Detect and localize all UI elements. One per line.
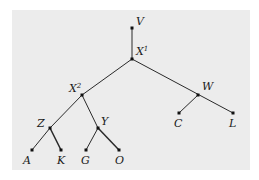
node-x1	[131, 58, 134, 61]
edge-w-c	[179, 95, 198, 113]
node-a	[31, 149, 34, 152]
label-y: Y	[101, 115, 110, 128]
label-z: Z	[36, 117, 45, 130]
node-c	[178, 112, 181, 115]
label-k: K	[56, 154, 66, 167]
node-k	[60, 149, 63, 152]
node-w	[197, 94, 200, 97]
edge-z-a	[32, 128, 50, 150]
tree-diagram: V X1 X2 W Z Y C L A K G O	[0, 0, 259, 180]
label-g: G	[81, 154, 90, 167]
label-v: V	[136, 15, 145, 28]
edge-x2-z	[50, 95, 82, 128]
edge-x1-x2	[82, 59, 132, 95]
edge-x2-y	[82, 95, 98, 128]
label-l: L	[228, 117, 236, 130]
edge-y-o	[98, 128, 119, 150]
node-o	[118, 149, 121, 152]
node-y	[97, 127, 100, 130]
node-x2	[81, 94, 84, 97]
node-z	[49, 127, 52, 130]
label-o: O	[115, 154, 124, 167]
label-x2-sup: 2	[76, 82, 82, 90]
label-x1: X1	[135, 45, 148, 58]
node-v	[131, 27, 134, 30]
label-w: W	[202, 80, 215, 93]
node-g	[85, 149, 88, 152]
label-x1-sup: 1	[144, 45, 148, 53]
label-a: A	[22, 154, 31, 167]
edge-z-k	[50, 128, 61, 150]
node-l	[232, 112, 235, 115]
edge-y-g	[86, 128, 98, 150]
edge-x1-w	[132, 59, 233, 113]
label-x2: X2	[68, 82, 82, 95]
label-c: C	[174, 117, 183, 130]
